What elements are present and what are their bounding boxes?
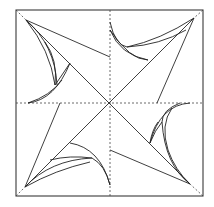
diagonal-br — [190, 184, 203, 196]
crescent-bottom-left — [25, 143, 110, 187]
pinwheel-diagram — [0, 0, 214, 207]
crescent-top-left — [26, 20, 70, 103]
diagonal-main-2 — [25, 18, 194, 187]
blade-edge-tr — [157, 18, 194, 103]
blade-edge-bl — [25, 103, 60, 187]
diagonal-tl — [16, 10, 26, 20]
crescent-bottom-right — [150, 103, 190, 184]
diagonal-bl — [16, 187, 25, 196]
blade-edge-br — [110, 150, 190, 184]
crescent-top-right — [110, 18, 194, 60]
diagonal-tr — [194, 10, 203, 18]
